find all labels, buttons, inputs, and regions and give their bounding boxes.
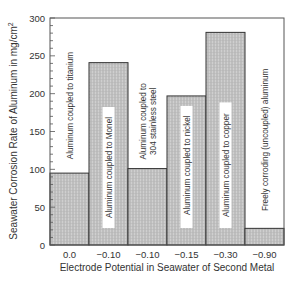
svg-text:Aluminum coupled to titanium: Aluminum coupled to titanium <box>66 52 75 160</box>
y-axis-title: Seawater Corrosion Rate of Aluminum in m… <box>7 22 19 239</box>
y-tick-label: 50 <box>34 202 45 213</box>
x-tick-label: −0.30 <box>213 249 237 260</box>
y-tick-label: 200 <box>29 88 45 99</box>
y-tick-label: 300 <box>29 13 45 24</box>
bar <box>50 173 89 245</box>
x-axis-title: Electrode Potential in Seawater of Secon… <box>60 262 275 273</box>
x-tick-label: −0.10 <box>135 249 159 260</box>
bar-label: Aluminum coupled to Monel <box>103 107 115 228</box>
y-tick-label: 150 <box>29 126 45 137</box>
bar <box>128 169 167 245</box>
bar-label: Aluminum coupled to copper <box>220 102 232 228</box>
svg-text:Aluminum coupled to nickel: Aluminum coupled to nickel <box>183 115 192 215</box>
x-tick-label: 0.0 <box>63 249 76 260</box>
bar-label: Aluminum coupled to nickel <box>181 106 193 228</box>
y-axis: 050100150200250300 <box>29 13 55 251</box>
x-tick-label: −0.15 <box>174 249 198 260</box>
bar-label: Freely corroding (uncoupled) aluminum <box>261 69 270 212</box>
chart-canvas: Aluminum coupled to titaniumAluminum cou… <box>0 0 297 285</box>
y-tick-label: 100 <box>29 164 45 175</box>
svg-text:Freely corroding (uncoupled) a: Freely corroding (uncoupled) aluminum <box>261 69 270 212</box>
bar-label: Aluminum coupled to titanium <box>66 52 75 160</box>
x-tick-label: −0.90 <box>252 249 276 260</box>
svg-text:Aluminum coupled to copper: Aluminum coupled to copper <box>222 113 231 217</box>
corrosion-bar-chart: Aluminum coupled to titaniumAluminum cou… <box>0 0 297 285</box>
y-tick-label: 0 <box>40 240 45 251</box>
bar-label: Aluminum coupled to304 stainless steel <box>139 83 158 160</box>
svg-text:Aluminum coupled to Monel: Aluminum coupled to Monel <box>105 117 114 218</box>
svg-text:Aluminum coupled to304 stainle: Aluminum coupled to304 stainless steel <box>139 83 158 160</box>
bars-group <box>50 32 284 245</box>
bar <box>245 228 284 245</box>
x-tick-label: −0.10 <box>96 249 120 260</box>
x-axis: 0.0−0.10−0.10−0.15−0.30−0.90 <box>63 249 277 260</box>
y-tick-label: 250 <box>29 50 45 61</box>
